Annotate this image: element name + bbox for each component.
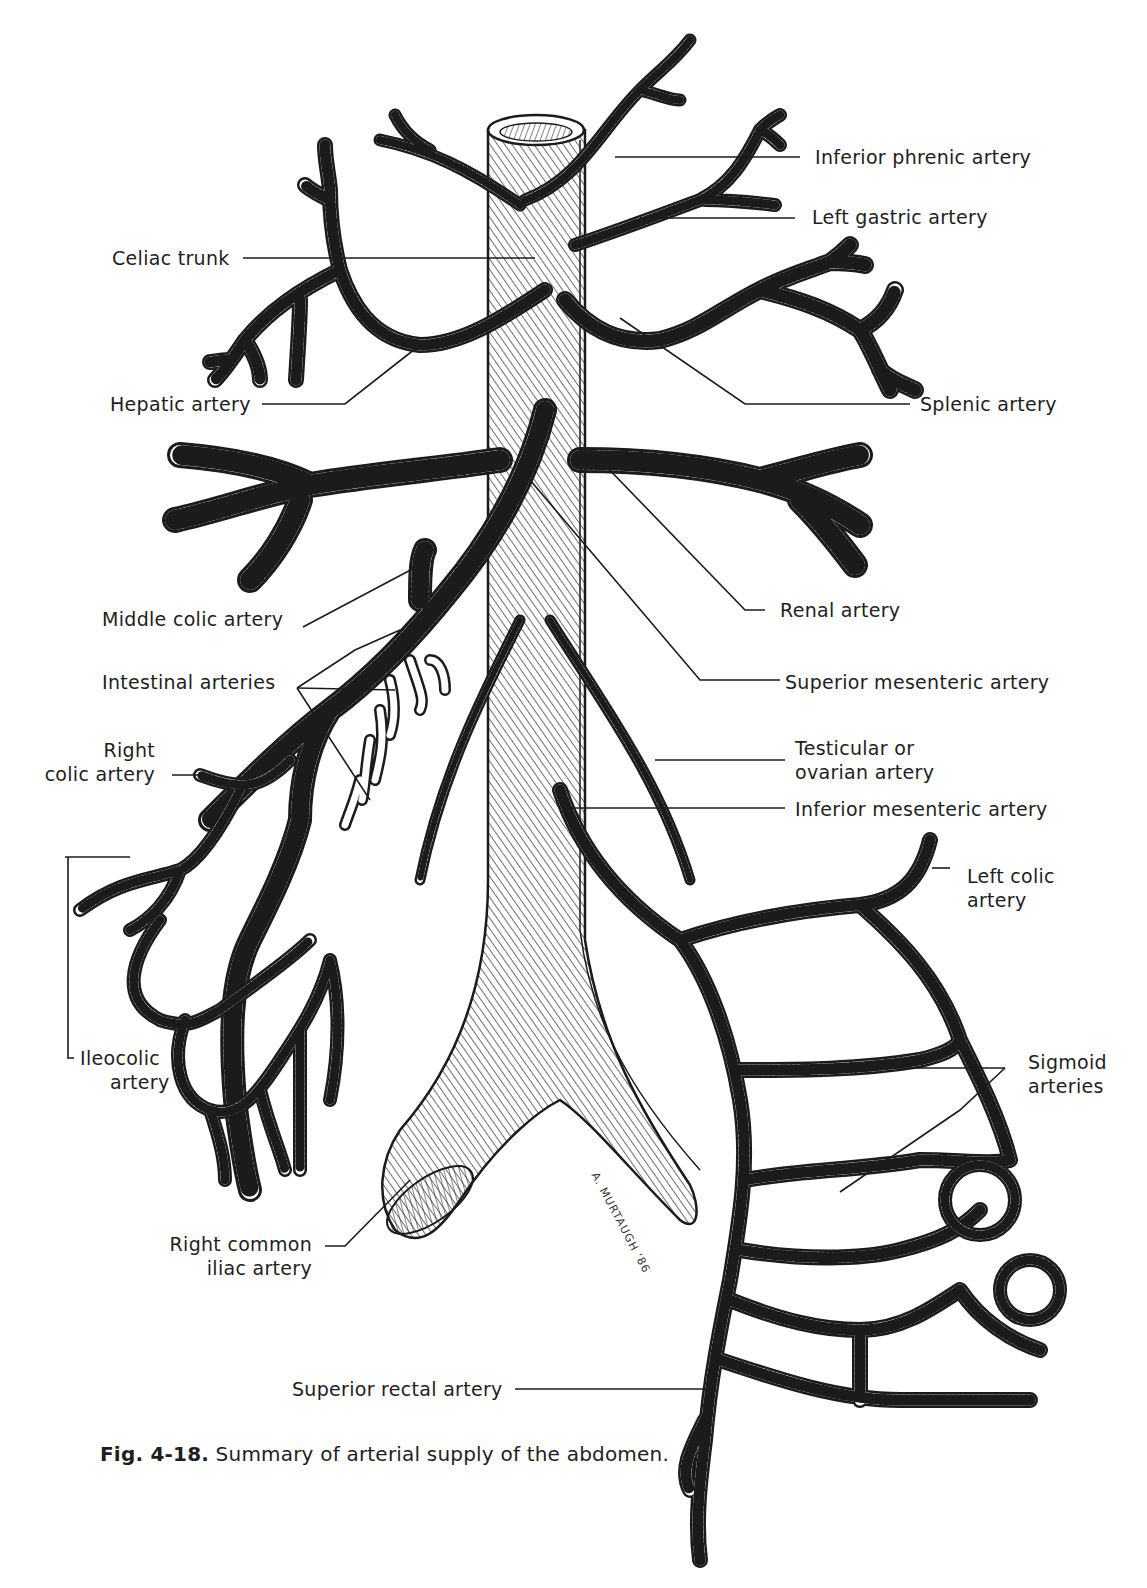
label-right-common-iliac-line2: iliac artery	[150, 1256, 312, 1280]
label-middle-colic-artery: Middle colic artery	[102, 607, 283, 631]
label-renal-artery: Renal artery	[780, 598, 900, 622]
label-sigmoid-arteries-line1: Sigmoid	[1028, 1050, 1107, 1074]
label-ileocolic-artery-line2: artery	[110, 1070, 169, 1094]
splenic-artery	[565, 245, 915, 390]
label-splenic-artery: Splenic artery	[920, 392, 1057, 416]
label-right-colic-artery-line1: Right	[60, 738, 155, 762]
figure-number: Fig. 4-18.	[100, 1442, 209, 1466]
label-left-colic-artery-line2: artery	[967, 888, 1026, 912]
label-inferior-phrenic-artery: Inferior phrenic artery	[815, 145, 1031, 169]
label-left-colic-artery-line1: Left colic	[967, 864, 1055, 888]
label-testicular-artery-line2: ovarian artery	[795, 760, 934, 784]
label-intestinal-arteries: Intestinal arteries	[102, 670, 275, 694]
label-left-gastric-artery: Left gastric artery	[812, 205, 988, 229]
label-superior-rectal-artery: Superior rectal artery	[292, 1377, 503, 1401]
figure-caption: Fig. 4-18. Summary of arterial supply of…	[100, 1442, 669, 1466]
label-ileocolic-artery-line1: Ileocolic	[80, 1046, 160, 1070]
label-hepatic-artery: Hepatic artery	[110, 392, 251, 416]
label-sigmoid-arteries-line2: arteries	[1028, 1074, 1104, 1098]
label-inferior-mesenteric-artery: Inferior mesenteric artery	[795, 797, 1048, 821]
label-right-common-iliac-line1: Right common	[150, 1232, 312, 1256]
arterial-supply-illustration	[0, 0, 1147, 1588]
figure-caption-text: Summary of arterial supply of the abdome…	[216, 1442, 669, 1466]
abdominal-aorta	[376, 115, 700, 1247]
label-right-colic-artery-line2: colic artery	[35, 762, 155, 786]
label-superior-mesenteric-artery: Superior mesenteric artery	[785, 670, 1049, 694]
label-testicular-artery-line1: Testicular or	[795, 736, 914, 760]
label-celiac-trunk: Celiac trunk	[112, 246, 230, 270]
